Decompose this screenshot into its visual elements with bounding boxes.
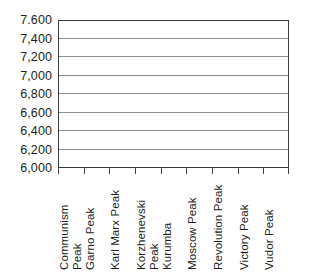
x-axis-category-label-line: Victory Peak (238, 174, 251, 270)
x-axis-category-label: Revolution Peak (212, 174, 238, 270)
y-axis: 7.6007,4007,2007,0006,8006,6006,4006,200… (0, 20, 55, 168)
x-axis-category-label-line: Korzhenevski (135, 174, 148, 270)
y-axis-tick-label: 7,000 (20, 69, 52, 82)
plot-area (58, 20, 289, 168)
x-axis: CommunismPeakGarno PeakKarl Marx PeakKor… (58, 174, 289, 274)
x-axis-category-label-line: Revolution Peak (212, 174, 225, 270)
gridline (59, 112, 288, 113)
gridline (59, 56, 288, 57)
chart-container: 7.6007,4007,2007,0006,8006,6006,4006,200… (0, 0, 310, 277)
y-axis-tick-label: 6,200 (20, 143, 52, 156)
y-axis-tick-label: 7,400 (20, 32, 52, 45)
y-axis-tick-label: 6,600 (20, 106, 52, 119)
gridline (59, 130, 288, 131)
gridlines (59, 21, 288, 167)
gridline (59, 93, 288, 94)
gridline (59, 149, 288, 150)
x-axis-category-label: Moscow Peak (186, 174, 212, 270)
x-axis-category-label-line: Karl Marx Peak (109, 174, 122, 270)
x-axis-category-label-line: Communism (58, 174, 71, 270)
x-axis-category-label: Karl Marx Peak (109, 174, 135, 270)
x-axis-category-label-line: Peak (71, 174, 84, 270)
x-axis-category-label: Kurumba (161, 174, 187, 270)
x-axis-category-label: Vudor Peak (263, 174, 289, 270)
x-axis-category-label-line: Kurumba (161, 174, 174, 270)
y-axis-tick-label: 7.600 (20, 14, 52, 27)
x-axis-category-label-line: Garno Peak (84, 174, 97, 270)
gridline (59, 75, 288, 76)
x-axis-category-label: Garno Peak (84, 174, 110, 270)
x-axis-category-label-line: Vudor Peak (263, 174, 276, 270)
gridline (59, 38, 288, 39)
y-axis-tick-label: 6,000 (20, 162, 52, 175)
x-axis-category-label: Victory Peak (238, 174, 264, 270)
x-axis-category-label: KorzhenevskiPeak (135, 174, 161, 270)
x-axis-category-label-line: Peak (148, 174, 161, 270)
y-axis-tick-label: 7,200 (20, 51, 52, 64)
y-axis-tick-label: 6,800 (20, 88, 52, 101)
y-axis-tick-label: 6,400 (20, 125, 52, 138)
x-axis-category-label-line: Moscow Peak (186, 174, 199, 270)
x-axis-category-label: CommunismPeak (58, 174, 84, 270)
